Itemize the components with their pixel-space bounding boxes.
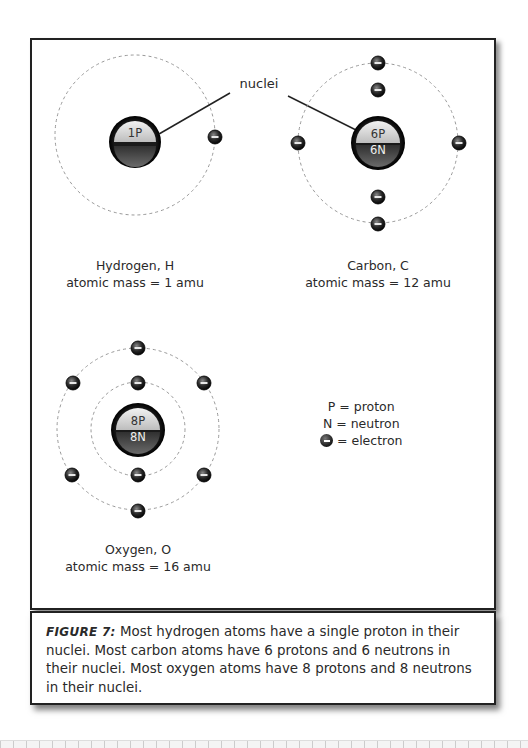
electron-icon	[320, 434, 333, 447]
electron-icon	[197, 468, 211, 482]
atomic-mass: atomic mass = 12 amu	[298, 274, 458, 291]
figure-label: FIGURE 7:	[46, 625, 116, 639]
nuclei-label: nuclei	[240, 76, 279, 91]
hydrogen-atom: 1P	[55, 55, 222, 215]
electron-icon	[371, 83, 385, 97]
legend-proton: P = proton	[320, 398, 403, 415]
oxygen-label: Oxygen, O atomic mass = 16 amu	[58, 541, 218, 575]
nucleus: 1P	[109, 116, 161, 168]
electron-icon	[371, 190, 385, 204]
electron-icon	[65, 468, 79, 482]
pointer-line	[159, 93, 230, 134]
legend-electron-label: = electron	[337, 432, 403, 449]
electron-icon	[291, 136, 305, 150]
electron-icon	[131, 504, 145, 518]
electron-icon	[452, 136, 466, 150]
electron-icon	[197, 376, 211, 390]
nucleus-label: 6P	[371, 127, 385, 141]
atom-name: Oxygen, O	[58, 541, 218, 558]
legend: P = proton N = neutron = electron	[320, 398, 403, 449]
legend-neutron: N = neutron	[320, 415, 403, 432]
nucleus: 6P 6N	[351, 116, 405, 170]
carbon-atom: 6P 6N	[291, 56, 466, 231]
figure-caption: FIGURE 7: Most hydrogen atoms have a sin…	[46, 623, 484, 697]
electron-icon	[371, 217, 385, 231]
electron-icon	[66, 376, 80, 390]
hydrogen-label: Hydrogen, H atomic mass = 1 amu	[60, 257, 210, 291]
nucleus-label: 8P	[131, 414, 145, 428]
electron-icon	[208, 130, 222, 144]
nucleus-label: 8N	[130, 430, 146, 444]
electron-icon	[131, 341, 145, 355]
electron-icon	[131, 468, 145, 482]
atom-name: Hydrogen, H	[60, 257, 210, 274]
nucleus-label: 1P	[128, 126, 142, 140]
page-edge	[0, 740, 528, 748]
oxygen-atom: 8P 8N	[57, 341, 219, 518]
nucleus-label: 6N	[370, 143, 386, 157]
electron-icon	[131, 376, 145, 390]
carbon-label: Carbon, C atomic mass = 12 amu	[298, 257, 458, 291]
atomic-mass: atomic mass = 16 amu	[58, 558, 218, 575]
electron-icon	[371, 56, 385, 70]
atomic-mass: atomic mass = 1 amu	[60, 274, 210, 291]
legend-electron: = electron	[320, 432, 403, 449]
nucleus: 8P 8N	[111, 403, 165, 457]
caption-box: FIGURE 7: Most hydrogen atoms have a sin…	[30, 611, 496, 705]
atom-name: Carbon, C	[298, 257, 458, 274]
